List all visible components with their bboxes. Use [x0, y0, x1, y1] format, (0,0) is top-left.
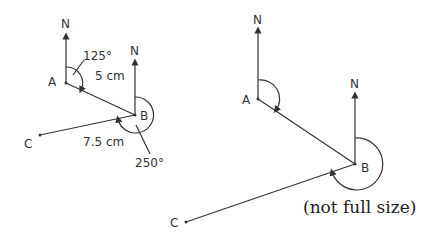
point-c-label: C: [170, 216, 178, 230]
scale-drawing: N N A B C (not full size): [170, 13, 416, 230]
north-label-b: N: [130, 44, 139, 58]
point-c-dot: [39, 134, 42, 137]
point-a-label: A: [242, 93, 251, 107]
bearing-ab-label: 125°: [83, 49, 112, 63]
point-a-label: A: [48, 75, 57, 89]
bearing-bc-label: 250°: [135, 156, 164, 170]
point-a-dot: [65, 82, 68, 85]
point-b-dot: [354, 163, 357, 166]
distance-ab-label: 5 cm: [95, 69, 125, 83]
north-label-a: N: [61, 17, 70, 31]
angle-pointer-b: [136, 125, 150, 154]
north-label-a: N: [253, 13, 262, 27]
line-ab: [66, 83, 135, 115]
point-b-dot: [134, 114, 137, 117]
line-ab: [258, 99, 355, 164]
sketch-diagram: N N A B C 125° 5 cm 7.5 cm 250°: [24, 17, 164, 170]
point-c-dot: [185, 221, 188, 224]
point-b-label: B: [361, 161, 369, 175]
distance-bc-label: 7.5 cm: [83, 135, 124, 149]
angle-arc-a: [258, 80, 280, 110]
bearings-diagram: N N A B C 125° 5 cm 7.5 cm 250° N N A B …: [0, 0, 446, 241]
point-a-dot: [257, 98, 260, 101]
north-label-b: N: [350, 77, 359, 91]
angle-arc-b: [332, 138, 383, 190]
point-c-label: C: [24, 137, 32, 151]
point-b-label: B: [140, 109, 148, 123]
not-full-size-caption: (not full size): [303, 197, 416, 217]
